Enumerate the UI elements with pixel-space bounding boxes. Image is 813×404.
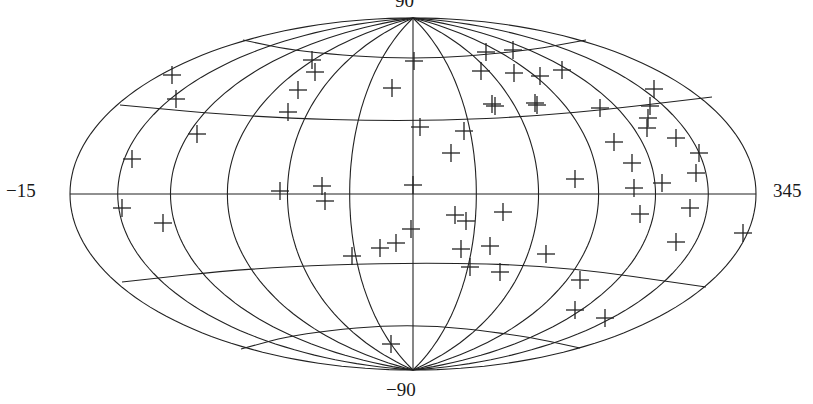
plus-marker-icon [531,67,549,85]
plus-marker-icon [402,220,420,238]
plus-marker-icon [167,90,185,108]
plus-marker-icon [163,66,181,84]
plus-marker-icon [591,99,609,117]
plus-marker-icon [639,109,657,127]
plus-marker-icon [306,63,324,81]
plus-marker-icon [537,245,555,263]
plus-marker-icon [687,164,705,182]
plus-marker-icon [477,43,495,61]
plus-marker-icon [645,80,663,98]
plus-marker-icon [452,240,470,258]
plus-marker-icon [566,301,584,319]
plus-marker-icon [494,203,512,221]
plus-marker-icon [631,205,649,223]
label-north-pole: 90 [395,0,414,12]
plus-marker-icon [343,247,361,265]
plus-marker-icon [605,133,623,151]
plus-marker-icon [371,239,389,257]
plus-marker-icon [455,122,473,140]
plus-marker-icon [154,214,172,232]
plus-marker-icon [667,233,685,251]
plus-marker-icon [505,64,523,82]
plus-marker-icon [113,199,131,217]
plus-marker-icon [303,51,321,69]
plus-marker-icon [526,94,544,112]
parallel-minus-60 [241,326,580,349]
plus-marker-icon [313,177,331,195]
plus-marker-icon [404,176,422,194]
plus-marker-icon [638,119,656,137]
plus-marker-icon [734,224,752,242]
plus-marker-icon [486,97,504,115]
plus-marker-icon [382,335,400,353]
plus-marker-icon [681,199,699,217]
label-south-pole: −90 [386,379,416,401]
data-markers [113,41,752,353]
plus-marker-icon [289,81,307,99]
plus-marker-icon [383,79,401,97]
plus-marker-icon [461,258,479,276]
plus-marker-icon [571,271,589,289]
label-left-longitude: −15 [6,180,36,202]
plus-marker-icon [442,144,460,162]
plus-marker-icon [491,263,509,281]
plus-marker-icon [483,95,501,113]
plus-marker-icon [481,237,499,255]
plus-marker-icon [405,52,423,70]
plus-marker-icon [472,62,490,80]
plus-marker-icon [690,144,708,162]
plus-marker-icon [271,182,289,200]
plus-marker-icon [123,150,141,168]
sky-map-plot [0,0,813,404]
plus-marker-icon [667,129,685,147]
plus-marker-icon [387,234,405,252]
parallel-minus-30 [122,263,706,287]
plus-marker-icon [316,192,334,210]
plus-marker-icon [623,154,641,172]
plus-marker-icon [566,170,584,188]
label-right-longitude: 345 [773,180,802,202]
plus-marker-icon [528,96,546,114]
plus-marker-icon [188,125,206,143]
plus-marker-icon [553,61,571,79]
